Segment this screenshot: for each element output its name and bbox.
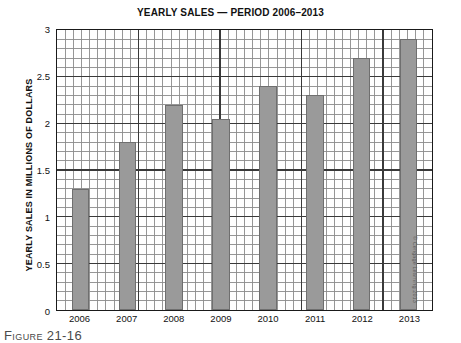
plot-area [56, 29, 433, 311]
y-tick-0-5: 0.5 [6, 260, 50, 270]
bar-2009 [212, 119, 230, 310]
x-tick-2011: 2011 [293, 314, 337, 324]
x-tick-2009: 2009 [199, 314, 243, 324]
bar-2008 [165, 105, 183, 310]
figure-root: YEARLY SALES — PERIOD 2006–2013 YEARLY S… [0, 0, 461, 343]
figure-caption: Figure 21-16 [4, 328, 82, 343]
x-tick-2006: 2006 [58, 314, 102, 324]
x-tick-2008: 2008 [152, 314, 196, 324]
bars-layer [57, 30, 432, 310]
y-tick-0: 0 [6, 307, 50, 317]
x-tick-2010: 2010 [246, 314, 290, 324]
y-tick-2: 2 [6, 119, 50, 129]
bar-2010 [259, 86, 277, 310]
bar-2007 [119, 142, 137, 310]
y-tick-1: 1 [6, 213, 50, 223]
y-tick-3: 3 [6, 25, 50, 35]
bar-2012 [353, 58, 371, 310]
y-axis-tick-labels: 3 2.5 2 1.5 1 0.5 0 [0, 0, 50, 343]
x-tick-2013: 2013 [387, 314, 431, 324]
bar-2006 [72, 189, 90, 310]
bar-2011 [306, 95, 324, 310]
chart-title: YEARLY SALES — PERIOD 2006–2013 [0, 7, 461, 18]
x-axis-tick-labels: 20062007200820092010201120122013 [56, 314, 433, 330]
x-tick-2007: 2007 [105, 314, 149, 324]
x-tick-2012: 2012 [340, 314, 384, 324]
y-tick-1-5: 1.5 [6, 166, 50, 176]
copyright-notice: © Cengage Learning 2013 [412, 236, 418, 326]
y-tick-2-5: 2.5 [6, 72, 50, 82]
